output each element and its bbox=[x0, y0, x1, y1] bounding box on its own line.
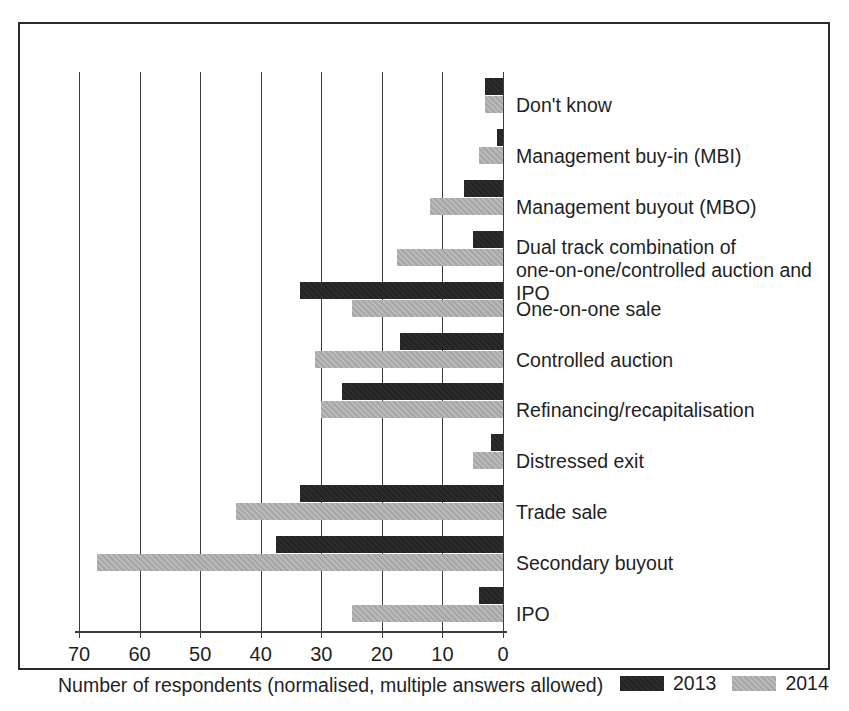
category-label: Management buy-in (MBI) bbox=[516, 145, 741, 168]
tick-0 bbox=[503, 626, 504, 638]
bar-2014 bbox=[479, 147, 503, 164]
bar-2014 bbox=[473, 452, 503, 469]
bar-2013 bbox=[479, 587, 503, 604]
category-label: One-on-one sale bbox=[516, 298, 661, 321]
category-label: IPO bbox=[516, 603, 550, 626]
category-label: Dual track combination of one-on-one/con… bbox=[516, 236, 828, 305]
legend-item-2013[interactable]: 2013 bbox=[620, 672, 716, 695]
category-label: Don't know bbox=[516, 94, 612, 117]
bar-2013 bbox=[300, 282, 503, 299]
tick-60 bbox=[140, 626, 141, 638]
bar-2013 bbox=[497, 129, 503, 146]
bar-2014 bbox=[430, 198, 503, 215]
gridline-60 bbox=[140, 72, 141, 632]
category-label: Refinancing/recapitalisation bbox=[516, 399, 754, 422]
category-label: Trade sale bbox=[516, 501, 607, 524]
bar-2014 bbox=[352, 300, 503, 317]
tick-40 bbox=[261, 626, 262, 638]
x-tick-label: 70 bbox=[56, 642, 102, 666]
gridline-50 bbox=[200, 72, 201, 632]
bar-2013 bbox=[485, 78, 503, 95]
x-tick-label: 10 bbox=[419, 642, 465, 666]
bar-2013 bbox=[300, 485, 503, 502]
bar-2014 bbox=[315, 351, 503, 368]
bar-2013 bbox=[400, 333, 503, 350]
legend-swatch-2013 bbox=[620, 676, 664, 691]
legend-item-2014[interactable]: 2014 bbox=[732, 672, 828, 695]
x-tick-label: 30 bbox=[298, 642, 344, 666]
category-label: Distressed exit bbox=[516, 450, 644, 473]
chart-frame: 706050403020100 Don't knowManagement buy… bbox=[18, 22, 830, 670]
bar-2014 bbox=[97, 554, 503, 571]
bar-chart-figure: 706050403020100 Don't knowManagement buy… bbox=[0, 0, 849, 711]
legend-label-2014: 2014 bbox=[785, 672, 828, 695]
x-tick-label: 40 bbox=[238, 642, 284, 666]
bar-2013 bbox=[464, 180, 503, 197]
legend-swatch-2014 bbox=[732, 676, 776, 691]
x-tick-label: 50 bbox=[177, 642, 223, 666]
x-tick-label: 0 bbox=[480, 642, 526, 666]
gridline-0 bbox=[503, 72, 504, 632]
x-axis-title: Number of respondents (normalised, multi… bbox=[58, 674, 603, 697]
x-tick-label: 20 bbox=[359, 642, 405, 666]
category-label: Management buyout (MBO) bbox=[516, 196, 757, 219]
gridline-40 bbox=[261, 72, 262, 632]
tick-10 bbox=[442, 626, 443, 638]
bar-2013 bbox=[491, 434, 503, 451]
bar-2014 bbox=[485, 96, 503, 113]
tick-70 bbox=[79, 626, 80, 638]
bar-2013 bbox=[276, 536, 503, 553]
tick-50 bbox=[200, 626, 201, 638]
tick-30 bbox=[321, 626, 322, 638]
tick-20 bbox=[382, 626, 383, 638]
chart-legend: 2013 2014 bbox=[620, 672, 829, 695]
bar-2014 bbox=[397, 249, 503, 266]
category-label: Controlled auction bbox=[516, 349, 673, 372]
bar-2013 bbox=[342, 383, 503, 400]
category-label: Secondary buyout bbox=[516, 552, 673, 575]
bar-2014 bbox=[352, 605, 503, 622]
bar-2014 bbox=[321, 401, 503, 418]
legend-label-2013: 2013 bbox=[673, 672, 716, 695]
x-tick-label: 60 bbox=[117, 642, 163, 666]
bar-2013 bbox=[473, 231, 503, 248]
bar-2014 bbox=[236, 503, 503, 520]
gridline-70 bbox=[79, 72, 80, 632]
